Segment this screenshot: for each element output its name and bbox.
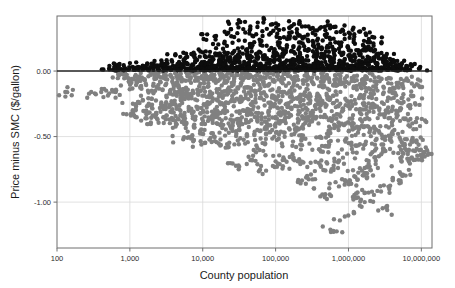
scatter-point [154,98,158,102]
scatter-point [210,91,214,95]
scatter-point [396,151,400,155]
scatter-point [236,86,240,90]
scatter-point [382,102,386,106]
scatter-point [144,83,148,87]
scatter-point [260,111,264,115]
scatter-point [280,66,284,70]
scatter-point [394,112,398,116]
scatter-point [134,83,138,87]
scatter-point [277,100,281,104]
scatter-point [373,148,377,152]
scatter-point [146,111,150,115]
scatter-point [303,24,307,28]
scatter-point [299,138,303,142]
scatter-point [178,55,182,59]
scatter-point [237,167,241,171]
scatter-point [199,62,203,66]
scatter-point [201,86,205,90]
scatter-point [284,50,288,54]
scatter-point [300,143,304,147]
scatter-point [175,94,179,98]
scatter-point [277,86,281,90]
scatter-point [353,98,357,102]
scatter-point [324,135,328,139]
scatter-point [309,172,313,176]
scatter-point [368,78,372,82]
scatter-point [414,120,418,124]
scatter-point [168,121,172,125]
scatter-point [260,29,264,33]
scatter-point [332,57,336,61]
scatter-point [151,84,155,88]
scatter-point [164,58,168,62]
scatter-point [375,189,379,193]
scatter-point [366,63,370,67]
scatter-point [57,93,61,97]
scatter-point [273,116,277,120]
scatter-point [329,169,333,173]
scatter-point [229,27,233,31]
scatter-point [192,122,196,126]
scatter-point [340,147,344,151]
scatter-point [323,168,327,172]
scatter-point [324,63,328,67]
scatter-point [228,161,232,165]
scatter-point [325,144,329,148]
scatter-point [418,124,422,128]
scatter-point [336,159,340,163]
scatter-point [295,27,299,31]
scatter-point [401,100,405,104]
scatter-point [424,145,428,149]
scatter-point [343,76,347,80]
scatter-point [362,96,366,100]
scatter-point [300,159,304,163]
scatter-point [349,143,353,147]
scatter-point [188,77,192,81]
scatter-point [340,28,344,32]
scatter-point [224,100,228,104]
scatter-point [272,60,276,64]
scatter-point [396,63,400,67]
scatter-point [376,208,380,212]
scatter-point [374,86,378,90]
scatter-point [398,170,402,174]
scatter-point [364,107,368,111]
scatter-point [149,96,153,100]
scatter-point [417,66,421,70]
scatter-point [306,96,310,100]
scatter-point [182,122,186,126]
scatter-point [280,94,284,98]
scatter-point [250,49,254,53]
scatter-point [406,97,410,101]
scatter-point [334,30,338,34]
scatter-point [198,139,202,143]
scatter-point [241,108,245,112]
scatter-point [403,116,407,120]
scatter-point [336,72,340,76]
scatter-point [160,88,164,92]
scatter-point [359,112,363,116]
scatter-point [220,57,224,61]
scatter-point [341,155,345,159]
scatter-point [291,65,295,69]
scatter-point [87,91,91,95]
scatter-point [385,205,389,209]
scatter-point [226,56,230,60]
scatter-point [279,130,283,134]
scatter-point [164,82,168,86]
scatter-point [284,121,288,125]
scatter-point [189,135,193,139]
scatter-point [346,213,350,217]
scatter-point [149,62,153,66]
scatter-point [313,32,317,36]
scatter-point [284,84,288,88]
scatter-point [243,74,247,78]
y-tick-label: -1.00 [34,198,51,207]
scatter-point [354,183,358,187]
scatter-point [249,102,253,106]
scatter-point [195,98,199,102]
scatter-point [128,83,132,87]
scatter-point [403,137,407,141]
scatter-point [379,152,383,156]
scatter-point [371,110,375,114]
